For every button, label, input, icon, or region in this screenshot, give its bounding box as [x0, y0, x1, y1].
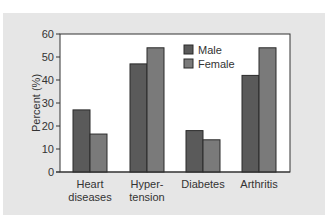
legend-label-female: Female [198, 58, 235, 70]
y-axis-label: Percent (%) [30, 74, 42, 132]
bar-female [90, 134, 107, 172]
bar-male [130, 64, 147, 172]
y-tick-label: 40 [42, 74, 54, 86]
x-category-label: diseases [68, 191, 112, 203]
y-tick-label: 30 [42, 97, 54, 109]
bar-male [186, 131, 203, 172]
bar-male [73, 110, 90, 172]
bar-female [259, 48, 276, 172]
x-category-label: Hyper- [130, 178, 163, 190]
legend-swatch-female [184, 59, 193, 68]
y-tick-label: 50 [42, 51, 54, 63]
y-tick-label: 10 [42, 143, 54, 155]
x-category-label: Diabetes [181, 178, 225, 190]
bar-female [147, 48, 164, 172]
bar-male [242, 75, 259, 172]
bar-female [203, 140, 220, 172]
x-category-label: Arthritis [240, 178, 278, 190]
y-tick-label: 0 [48, 166, 54, 178]
legend-label-male: Male [198, 44, 222, 56]
x-category-label: Heart [77, 178, 104, 190]
y-tick-label: 20 [42, 120, 54, 132]
x-category-label: tension [129, 191, 164, 203]
legend-swatch-male [184, 45, 193, 54]
y-tick-label: 60 [42, 28, 54, 40]
bar-chart: 0102030405060Percent (%)HeartdiseasesHyp… [0, 0, 333, 223]
